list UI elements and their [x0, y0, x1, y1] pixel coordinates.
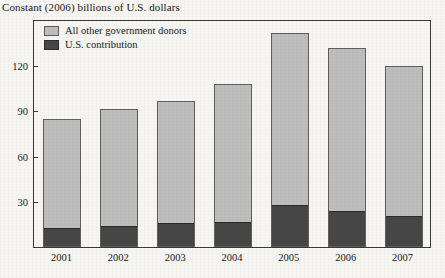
bar-stack [328, 48, 366, 247]
x-tick-label: 2007 [392, 252, 413, 263]
bar-segment-us-contribution [101, 226, 137, 246]
x-tick-label: 2002 [108, 252, 129, 263]
bar-stack [100, 109, 138, 247]
legend-item-label: U.S. contribution [65, 40, 138, 51]
y-tick-label: 120 [2, 60, 28, 71]
chart-title: Constant (2006) billions of U.S. dollars [2, 1, 180, 13]
bar-segment-us-contribution [158, 223, 194, 246]
bar-stack [271, 33, 309, 247]
x-tick-label: 2001 [51, 252, 72, 263]
y-tick-label: 30 [2, 197, 28, 208]
plot-frame [33, 20, 431, 248]
bar-stack [43, 119, 81, 247]
bar-stack [385, 66, 423, 247]
bar-stack [157, 101, 195, 247]
bar-group [328, 19, 366, 247]
bar-segment-us-contribution [329, 211, 365, 246]
plot-area [34, 21, 430, 247]
bar-segment-us-contribution [386, 216, 422, 246]
legend-item: U.S. contribution [44, 40, 187, 51]
bar-segment-us-contribution [215, 222, 251, 246]
y-tick-label: 90 [2, 106, 28, 117]
bar-group [385, 19, 423, 247]
x-tick-label: 2006 [335, 252, 356, 263]
legend-swatch-other [44, 26, 59, 36]
bar-group [271, 19, 309, 247]
x-tick-label: 2003 [165, 252, 186, 263]
legend-swatch-us [44, 40, 59, 50]
bar-group [100, 19, 138, 247]
bar-group [43, 19, 81, 247]
legend-item-label: All other government donors [65, 26, 187, 37]
legend-item: All other government donors [44, 26, 187, 37]
x-tick-label: 2004 [222, 252, 243, 263]
bar-stack [214, 84, 252, 247]
bar-group [157, 19, 195, 247]
chart-legend: All other government donorsU.S. contribu… [44, 26, 187, 53]
y-tick-label: 60 [2, 151, 28, 162]
bar-segment-us-contribution [272, 205, 308, 246]
x-tick-label: 2005 [278, 252, 299, 263]
bar-group [214, 19, 252, 247]
bar-segment-us-contribution [44, 228, 80, 246]
